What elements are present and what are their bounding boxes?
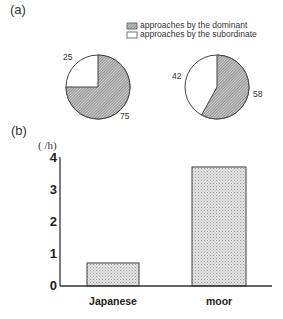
legend-swatch-dominant bbox=[127, 23, 137, 29]
pie1-subordinate-value: 25 bbox=[63, 52, 72, 62]
panel-b-label: (b) bbox=[11, 123, 27, 138]
legend-swatch-subordinate bbox=[127, 32, 137, 38]
bar-japanese bbox=[87, 263, 139, 286]
x-label-japanese: Japanese bbox=[78, 295, 148, 307]
y-tick-1: 1 bbox=[43, 246, 57, 261]
bar-chart bbox=[87, 167, 246, 286]
pie-charts bbox=[66, 55, 249, 119]
pie1-dominant-value: 75 bbox=[120, 111, 129, 121]
x-label-moor: moor bbox=[184, 295, 254, 307]
pie2-subordinate-value: 42 bbox=[172, 71, 181, 81]
legend: approaches by the dominant approaches by… bbox=[140, 21, 257, 39]
pie2-dominant-value: 58 bbox=[253, 89, 262, 99]
panel-a-label: (a) bbox=[10, 2, 26, 17]
bar-moor bbox=[192, 167, 246, 286]
y-tick-0: 0 bbox=[43, 278, 57, 293]
y-tick-4: 4 bbox=[43, 150, 57, 165]
legend-item-subordinate: approaches by the subordinate bbox=[140, 30, 257, 39]
legend-label-subordinate: approaches by the subordinate bbox=[140, 30, 257, 39]
y-tick-3: 3 bbox=[43, 182, 57, 197]
y-tick-2: 2 bbox=[43, 214, 57, 229]
